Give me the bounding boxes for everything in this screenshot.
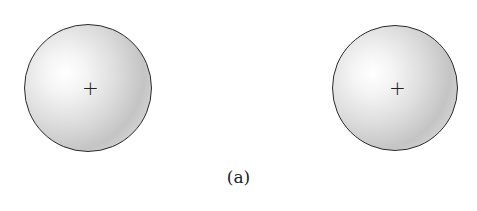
figure-caption: (a) (0, 167, 477, 187)
plus-sign-left: + (82, 78, 99, 98)
plus-sign-right: + (389, 78, 406, 98)
